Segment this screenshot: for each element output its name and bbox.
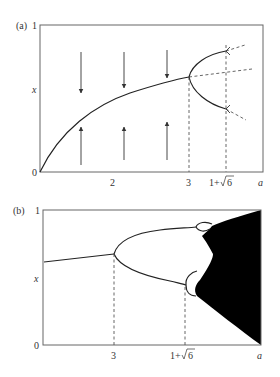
panel-b-period2-lower xyxy=(114,254,186,285)
panel-b-period2-upper xyxy=(114,227,196,254)
svg-text:6: 6 xyxy=(188,350,193,361)
panel-a-unstable-lower xyxy=(226,109,246,120)
panel-a-y-top-tick: 1 xyxy=(32,20,37,31)
panel-a-period2-lower xyxy=(189,77,226,109)
panel-b-period4-lower-a xyxy=(186,271,197,285)
bifurcation-marker-icon xyxy=(226,47,230,55)
svg-text:1+: 1+ xyxy=(209,177,220,188)
panel-b: (b) 1 0 x a 3 1+ 6 xyxy=(13,205,262,361)
panel-b-chaotic-region xyxy=(195,210,261,345)
panel-a-y-bottom-tick: 0 xyxy=(32,167,37,178)
svg-text:6: 6 xyxy=(227,177,232,188)
panel-b-fixed-point-line xyxy=(44,254,114,262)
panel-b-label: (b) xyxy=(13,205,25,217)
panel-a: (a) 1 0 x a 2 3 1+ 6 xyxy=(16,20,263,188)
panel-b-x-axis-label: a xyxy=(257,350,262,361)
panel-a-tick-2: 2 xyxy=(110,177,115,188)
panel-a-flow-arrows xyxy=(81,50,167,165)
bifurcation-figure: (a) 1 0 x a 2 3 1+ 6 xyxy=(0,0,280,377)
panel-b-period4-lower-b xyxy=(186,285,196,296)
panel-a-x-axis-label: a xyxy=(258,177,263,188)
panel-b-y-axis-label: x xyxy=(33,273,39,284)
panel-a-unstable-fixed-point xyxy=(189,69,252,77)
panel-b-y-top-tick: 1 xyxy=(35,205,40,216)
panel-a-tick-3: 3 xyxy=(186,177,191,188)
panel-b-tick-sqrt6: 1+ 6 xyxy=(170,349,195,361)
svg-text:1+: 1+ xyxy=(170,350,181,361)
panel-a-tick-sqrt6: 1+ 6 xyxy=(209,176,234,188)
panel-b-period4-upper-b xyxy=(196,227,210,231)
panel-b-y-bottom-tick: 0 xyxy=(34,340,39,351)
panel-a-label: (a) xyxy=(16,20,27,32)
bifurcation-marker-icon xyxy=(226,105,230,113)
panel-b-tick-3: 3 xyxy=(111,350,116,361)
panel-a-y-axis-label: x xyxy=(31,84,37,95)
panel-a-period2-upper xyxy=(189,51,226,77)
panel-b-period4-upper-a xyxy=(196,222,212,227)
